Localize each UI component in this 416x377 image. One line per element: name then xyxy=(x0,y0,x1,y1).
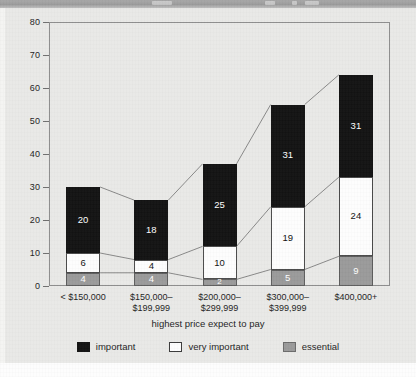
bar-value-label: 31 xyxy=(351,121,362,131)
y-tick-label-0: 0 xyxy=(14,281,40,291)
bar-value-label: 19 xyxy=(282,233,293,243)
bar-segment-very-important: 4 xyxy=(134,260,168,273)
bar-segment-very-important: 19 xyxy=(271,207,305,270)
legend-swatch-important xyxy=(77,342,90,352)
x-category-line-2: $399,999 xyxy=(254,303,322,314)
x-category-line-1: $400,000+ xyxy=(334,292,377,302)
x-category-label: < $150,000 xyxy=(49,292,117,303)
bar-value-label: 24 xyxy=(351,211,362,221)
y-tick-label-80: 80 xyxy=(14,17,40,27)
page-left-margin xyxy=(0,8,5,363)
bar-group: 21025 xyxy=(203,22,237,286)
bar-value-label: 25 xyxy=(214,200,225,210)
x-category-line-1: < $150,000 xyxy=(60,292,105,302)
bar-segment-essential: 9 xyxy=(339,256,373,286)
bar-segment-important: 18 xyxy=(134,200,168,259)
y-tick-label-70: 70 xyxy=(14,50,40,60)
x-category-line-1: $200,000– xyxy=(198,292,241,302)
bar-value-label: 9 xyxy=(353,266,358,276)
legend-item-essential: essential xyxy=(283,341,340,352)
legend-label-essential: essential xyxy=(302,341,340,352)
x-category-line-2: $299,999 xyxy=(185,303,253,314)
legend-label-very-important: very important xyxy=(188,341,248,352)
bar-segment-important: 20 xyxy=(66,187,100,253)
y-tick-label-20: 20 xyxy=(14,215,40,225)
bar-segment-essential: 4 xyxy=(66,273,100,286)
y-tick-label-50: 50 xyxy=(14,116,40,126)
bar-group: 4620 xyxy=(66,22,100,286)
cut-off-title-bar xyxy=(0,0,416,8)
x-category-line-1: $150,000– xyxy=(130,292,173,302)
bar-value-label: 4 xyxy=(149,274,154,284)
bar-value-label: 4 xyxy=(80,274,85,284)
y-tick-mark-0 xyxy=(43,286,49,287)
bar-segment-very-important: 10 xyxy=(203,246,237,279)
plot-area: 46204418210255193192431 xyxy=(49,22,390,286)
bar-value-label: 31 xyxy=(282,150,293,160)
bar-segment-very-important: 24 xyxy=(339,177,373,256)
x-category-line-1: $300,000– xyxy=(266,292,309,302)
bar-value-label: 4 xyxy=(149,261,154,271)
bar-segment-very-important: 6 xyxy=(66,253,100,273)
chart-page: percent 01020304050607080 46204418210255… xyxy=(0,0,416,377)
bar-segment-important: 25 xyxy=(203,164,237,247)
bar-segment-essential: 2 xyxy=(203,279,237,286)
bar-segment-important: 31 xyxy=(339,75,373,177)
chart-legend: important very important essential xyxy=(0,341,416,352)
legend-item-very-important: very important xyxy=(169,341,248,352)
y-tick-label-60: 60 xyxy=(14,83,40,93)
y-tick-label-30: 30 xyxy=(14,182,40,192)
bar-segment-essential: 4 xyxy=(134,273,168,286)
legend-swatch-very-important xyxy=(169,342,182,352)
bar-segment-important: 31 xyxy=(271,105,305,207)
bar-group: 92431 xyxy=(339,22,373,286)
y-tick-label-10: 10 xyxy=(14,248,40,258)
x-category-label: $200,000–$299,999 xyxy=(185,292,253,314)
x-category-line-2: $199,999 xyxy=(117,303,185,314)
bar-value-label: 6 xyxy=(80,258,85,268)
bar-value-label: 20 xyxy=(78,215,89,225)
y-tick-label-40: 40 xyxy=(14,149,40,159)
bar-value-label: 5 xyxy=(285,273,290,283)
bar-group: 51931 xyxy=(271,22,305,286)
x-category-label: $300,000–$399,999 xyxy=(254,292,322,314)
bar-group: 4418 xyxy=(134,22,168,286)
legend-item-important: important xyxy=(77,341,136,352)
bar-segment-essential: 5 xyxy=(271,270,305,287)
page-bottom-margin xyxy=(0,363,416,377)
bar-value-label: 18 xyxy=(146,225,157,235)
x-axis-label: highest price expect to pay xyxy=(0,318,416,329)
x-category-label: $150,000–$199,999 xyxy=(117,292,185,314)
legend-label-important: important xyxy=(96,341,136,352)
x-category-label: $400,000+ xyxy=(322,292,390,303)
bar-value-label: 10 xyxy=(214,258,225,268)
legend-swatch-essential xyxy=(283,342,296,352)
